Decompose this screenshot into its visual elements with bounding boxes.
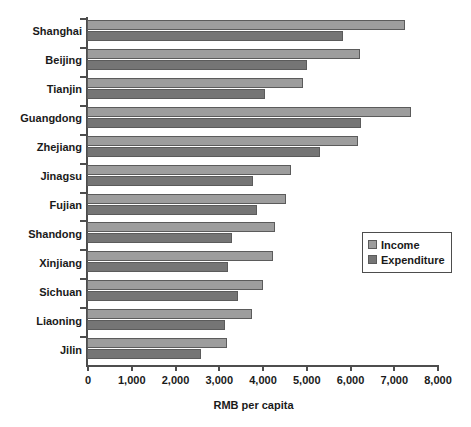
income-swatch-icon (368, 240, 377, 249)
x-axis-tick (87, 365, 89, 371)
x-axis-tick (437, 365, 439, 371)
y-axis-tick (80, 278, 87, 280)
chart-legend: Income Expenditure (362, 232, 452, 273)
bar-group (87, 105, 437, 134)
x-axis-tick (218, 365, 220, 371)
x-axis-tick-label: 2,000 (162, 374, 190, 386)
y-axis-tick (80, 220, 87, 222)
x-axis-tick-label: 0 (85, 374, 91, 386)
bar-expenditure (87, 31, 343, 41)
y-axis-tick (80, 249, 87, 251)
bar-group (87, 278, 437, 307)
bar-group (87, 192, 437, 221)
x-axis-tick (131, 365, 133, 371)
bar-expenditure (87, 320, 225, 330)
x-axis-tick-label: 6,000 (337, 374, 365, 386)
x-axis-tick-label: 8,000 (424, 374, 452, 386)
bar-group (87, 76, 437, 105)
y-axis-tick (80, 105, 87, 107)
bar-income (87, 222, 275, 232)
x-axis-tick-label: 7,000 (380, 374, 408, 386)
y-axis-tick (80, 18, 87, 20)
bar-income (87, 251, 273, 261)
bar-expenditure (87, 147, 320, 157)
legend-item-income: Income (368, 237, 445, 252)
bar-income (87, 78, 303, 88)
y-axis-tick (80, 307, 87, 309)
y-axis-tick (80, 336, 87, 338)
y-axis-label: Fujian (0, 199, 82, 211)
y-axis-label: Shandong (0, 228, 82, 240)
y-axis-label: Jinagsu (0, 170, 82, 182)
bar-income (87, 309, 252, 319)
y-axis-label: Shanghai (0, 25, 82, 37)
bar-expenditure (87, 118, 361, 128)
y-axis-label: Jilin (0, 344, 82, 356)
bar-group (87, 163, 437, 192)
bar-group (87, 18, 437, 47)
legend-label-income: Income (381, 239, 420, 251)
bar-expenditure (87, 89, 265, 99)
bar-group (87, 134, 437, 163)
x-axis-tick-label: 3,000 (205, 374, 233, 386)
y-axis-tick (80, 192, 87, 194)
bar-expenditure (87, 176, 253, 186)
bar-group (87, 307, 437, 336)
bar-income (87, 338, 227, 348)
bar-chart: ShanghaiBeijingTianjinGuangdongZhejiangJ… (0, 0, 471, 427)
bar-income (87, 107, 411, 117)
legend-label-expenditure: Expenditure (381, 254, 445, 266)
y-axis-tick (80, 134, 87, 136)
legend-item-expenditure: Expenditure (368, 252, 445, 267)
x-axis-tick (262, 365, 264, 371)
bar-income (87, 280, 263, 290)
bar-income (87, 165, 291, 175)
y-axis-label: Liaoning (0, 315, 82, 327)
expenditure-swatch-icon (368, 255, 377, 264)
y-axis-label: Guangdong (0, 112, 82, 124)
y-axis-label: Beijing (0, 54, 82, 66)
x-axis-tick (175, 365, 177, 371)
y-axis-label: Xinjiang (0, 257, 82, 269)
bar-expenditure (87, 349, 201, 359)
x-axis-tick (306, 365, 308, 371)
x-axis-tick-label: 5,000 (293, 374, 321, 386)
plot-area (87, 18, 437, 365)
y-axis-label: Sichuan (0, 286, 82, 298)
bar-expenditure (87, 291, 238, 301)
x-axis-title: RMB per capita (0, 399, 471, 411)
bar-expenditure (87, 205, 257, 215)
bar-income (87, 20, 405, 30)
bar-expenditure (87, 60, 307, 70)
y-axis-tick (80, 47, 87, 49)
y-axis-label: Zhejiang (0, 141, 82, 153)
bar-group (87, 47, 437, 76)
x-axis-tick (350, 365, 352, 371)
bar-income (87, 136, 358, 146)
bar-income (87, 49, 360, 59)
x-axis-tick-label: 1,000 (118, 374, 146, 386)
bar-group (87, 336, 437, 365)
x-axis-tick (393, 365, 395, 371)
bar-expenditure (87, 233, 232, 243)
y-axis-tick (80, 163, 87, 165)
bar-expenditure (87, 262, 228, 272)
bar-income (87, 194, 286, 204)
y-axis-label: Tianjin (0, 83, 82, 95)
y-axis-tick (80, 76, 87, 78)
x-axis-tick-label: 4,000 (249, 374, 277, 386)
